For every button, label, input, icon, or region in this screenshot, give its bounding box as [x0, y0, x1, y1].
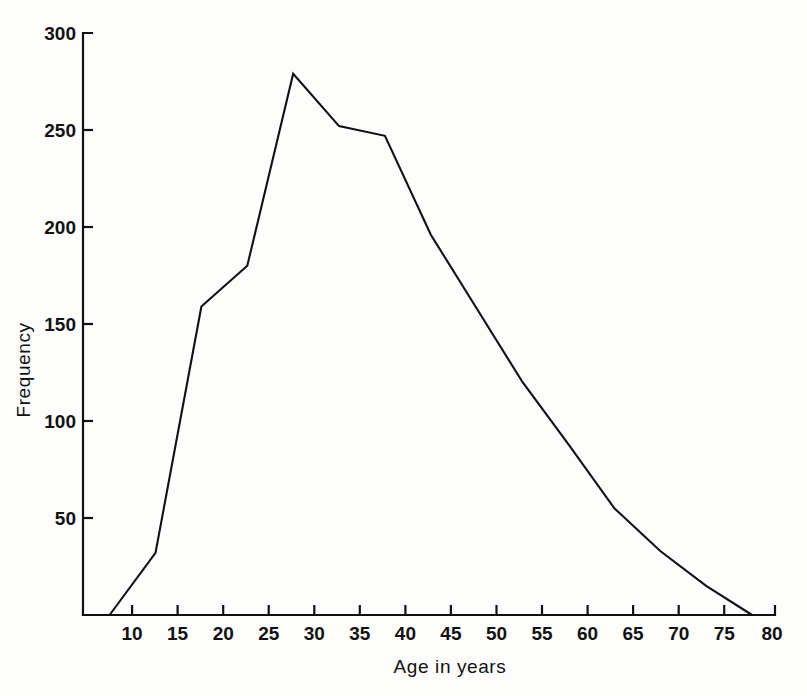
y-tick-label-100: 100 [44, 411, 76, 432]
y-tick-label-200: 200 [44, 217, 76, 238]
x-tick-label-15: 15 [167, 623, 189, 644]
x-tick-label-70: 70 [668, 623, 689, 644]
x-tick-label-45: 45 [440, 623, 462, 644]
x-tick-label-40: 40 [395, 623, 416, 644]
y-axis-tick-labels: 300 250 200 150 100 50 [44, 23, 76, 529]
x-axis-title: Age in years [394, 656, 507, 677]
x-tick-label-60: 60 [577, 623, 598, 644]
x-tick-label-80: 80 [761, 623, 782, 644]
x-tick-label-75: 75 [714, 623, 736, 644]
x-tick-label-10: 10 [122, 623, 143, 644]
y-axis-ticks [83, 130, 93, 518]
x-tick-label-20: 20 [213, 623, 234, 644]
y-axis-title: Frequency [13, 322, 34, 417]
y-tick-label-150: 150 [44, 314, 76, 335]
x-tick-label-55: 55 [531, 623, 553, 644]
y-tick-label-300: 300 [44, 23, 76, 44]
x-tick-label-30: 30 [304, 623, 325, 644]
frequency-polygon-chart: 300 250 200 150 100 50 Frequency [0, 0, 807, 696]
x-axis-ticks [132, 605, 724, 615]
y-tick-label-250: 250 [44, 120, 76, 141]
frequency-polygon-line [110, 74, 752, 615]
x-tick-label-25: 25 [258, 623, 280, 644]
x-tick-label-50: 50 [486, 623, 507, 644]
chart-figure: 300 250 200 150 100 50 Frequency [0, 0, 807, 696]
x-tick-label-35: 35 [349, 623, 371, 644]
x-axis-line [83, 606, 775, 615]
x-axis-tick-labels: 10 15 20 25 30 35 40 45 50 55 60 65 70 7… [122, 623, 783, 644]
x-tick-label-65: 65 [623, 623, 645, 644]
y-tick-label-50: 50 [55, 508, 76, 529]
